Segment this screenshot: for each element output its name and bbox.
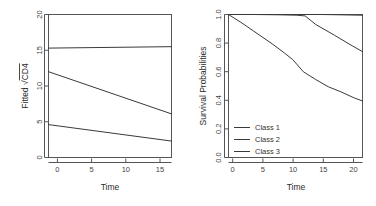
right-y-ticklabel-0.2: 0.2 <box>214 124 223 134</box>
right-plot-frame <box>229 15 363 158</box>
left-x-ticklabel-15: 15 <box>156 165 164 174</box>
legend-label-class-2: Class 2 <box>255 135 280 144</box>
svg-text:Fitted √CD4: Fitted √CD4 <box>20 63 30 109</box>
left-data-lines <box>49 47 172 141</box>
right-y-ticklabel-0.8: 0.8 <box>214 38 223 48</box>
left-y-ticklabel-20: 20 <box>35 10 44 18</box>
left-y-ticklabel-5: 5 <box>35 120 44 124</box>
series-line-class-2 <box>49 72 172 114</box>
left-y-ticklabel-0: 0 <box>35 155 44 159</box>
right-y-ticklabel-0.6: 0.6 <box>214 66 223 76</box>
right-x-ticklabel-5: 5 <box>261 165 265 174</box>
left-x-axis-title: Time <box>101 182 120 192</box>
left-y-title-radicand: CD4 <box>20 63 30 80</box>
legend: Class 1 Class 2 Class 3 <box>234 123 280 156</box>
chart-panel-right: 1.0 0.8 0.6 0.4 0.2 0.0 Survival Probabi… <box>188 0 376 206</box>
left-x-ticklabel-0: 0 <box>55 165 59 174</box>
right-y-ticklabel-0.0: 0.0 <box>214 152 223 162</box>
right-y-ticklabel-0.4: 0.4 <box>214 95 223 105</box>
series-line-class-3 <box>49 125 172 141</box>
left-x-ticklabel-10: 10 <box>122 165 130 174</box>
left-x-axis <box>49 159 172 163</box>
right-data-lines <box>229 15 363 102</box>
right-y-axis-title-text: Survival Probabilities <box>198 47 208 126</box>
right-x-axis <box>229 159 363 163</box>
chart-panel-left: 20 15 10 5 0 Fitted √CD4 0 5 10 15 <box>0 0 188 206</box>
right-x-ticklabel-20: 20 <box>349 165 357 174</box>
figure-container: 20 15 10 5 0 Fitted √CD4 0 5 10 15 <box>0 0 376 206</box>
right-x-axis-title: Time <box>287 182 306 192</box>
right-x-ticklabel-15: 15 <box>319 165 327 174</box>
right-plot-svg: 1.0 0.8 0.6 0.4 0.2 0.0 Survival Probabi… <box>188 0 376 206</box>
legend-label-class-3: Class 3 <box>255 147 280 156</box>
left-y-axis <box>45 15 49 158</box>
legend-label-class-1: Class 1 <box>255 123 280 132</box>
series-line-class-1 <box>49 47 172 48</box>
left-plot-svg: 20 15 10 5 0 Fitted √CD4 0 5 10 15 <box>0 0 188 206</box>
left-y-axis-title: Fitted √CD4 <box>20 63 30 109</box>
left-plot-frame <box>49 15 172 158</box>
series-line-class-3 <box>229 15 363 102</box>
left-y-ticklabel-10: 10 <box>35 82 44 90</box>
right-y-ticklabel-1.0: 1.0 <box>214 9 223 19</box>
right-x-ticklabel-0: 0 <box>231 165 235 174</box>
left-x-ticklabel-5: 5 <box>90 165 94 174</box>
right-y-axis <box>225 15 229 158</box>
series-line-class-2 <box>229 15 363 52</box>
right-x-ticklabel-10: 10 <box>289 165 297 174</box>
right-y-axis-title: Survival Probabilities <box>198 47 208 126</box>
left-y-title-prefix: Fitted <box>20 85 30 109</box>
left-y-ticklabel-15: 15 <box>35 46 44 54</box>
